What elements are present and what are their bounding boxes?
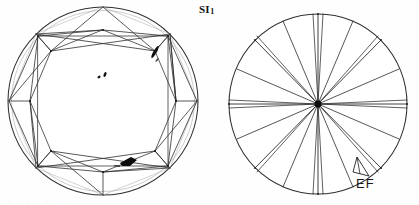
clarity-plot-root: SI1 EF . . . . . . .	[0, 0, 419, 205]
pavilion-view-group	[228, 13, 408, 195]
clarity-grade-label: SI1	[199, 3, 214, 15]
crown-view-group	[8, 7, 198, 195]
pavilion-culet	[315, 101, 322, 108]
crown-girdle-outline	[8, 7, 198, 195]
clarity-grade-text: SI	[199, 3, 210, 15]
extra-facet-label: EF	[356, 176, 375, 191]
footer-text-fragment: . . . . . . .	[8, 196, 70, 204]
clarity-grade-subscript: 1	[210, 7, 214, 16]
diamond-plot-canvas	[0, 0, 419, 205]
